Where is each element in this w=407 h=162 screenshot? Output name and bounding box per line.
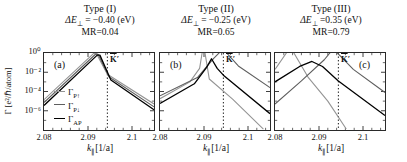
x-tick-label: 2.1 — [243, 132, 254, 142]
legend-line-p-down-icon — [54, 104, 65, 105]
panel-letter-b: (b) — [170, 59, 182, 70]
x-tick-label: 2.08 — [268, 132, 283, 142]
y-tick-label: 10⁻⁶ — [16, 105, 41, 115]
x-tick-label: 2.08 — [37, 132, 52, 142]
kprime-label-b: K′ — [226, 54, 235, 64]
panel-c-mr: MR=0.79 — [261, 27, 401, 38]
x-axis-title-b: k∥[1/a] — [203, 143, 229, 156]
x-tick-label: 2.09 — [81, 132, 96, 142]
panel-c-delta-e: ΔE⊥ =0.35 (eV) — [261, 15, 401, 28]
panel-c-header: Type (III) ΔE⊥ =0.35 (eV) MR=0.79 — [261, 3, 401, 39]
legend-label-ap: ΓAP — [68, 114, 82, 124]
legend-line-ap-icon — [54, 118, 65, 119]
panel-letter-c: (c) — [359, 59, 370, 70]
legend-item-ap: ΓAP — [54, 108, 82, 122]
kprime-label-c: K′ — [341, 54, 350, 64]
plot-area-c: (c) K′ — [274, 52, 386, 131]
legend: ΓP↑ ΓP↓ ΓAP — [54, 81, 82, 122]
x-tick-label: 2.08 — [153, 132, 168, 142]
x-axis-title-c: k∥[1/a] — [318, 143, 344, 156]
legend-item-p-up: ΓP↑ — [54, 81, 82, 95]
kprime-label-a: K′ — [110, 54, 119, 64]
y-tick-label: 10⁻² — [16, 66, 41, 76]
legend-line-p-up-icon — [54, 91, 65, 92]
y-tick-label: 10⁻⁴ — [16, 85, 41, 95]
panel-c-title: Type (III) — [261, 3, 401, 15]
x-tick-label: 2.1 — [358, 132, 369, 142]
panel-letter-a: (a) — [54, 59, 65, 70]
legend-item-p-down: ΓP↓ — [54, 95, 82, 109]
plot-area-b: (b) K′ — [159, 52, 271, 131]
y-tick-label: 10⁰ — [16, 46, 41, 56]
figure-container: Γ [e²/ℏ/atom] 10⁰ 10⁻² 10⁻⁴ 10⁻⁶ Type (I… — [0, 0, 407, 162]
x-tick-label: 2.1 — [127, 132, 138, 142]
x-tick-label: 2.09 — [197, 132, 212, 142]
curve-p — [275, 53, 346, 129]
y-axis-title: Γ [e²/ℏ/atom] — [3, 55, 13, 127]
x-tick-label: 2.09 — [312, 132, 327, 142]
x-axis-title-a: k∥[1/a] — [87, 143, 113, 156]
